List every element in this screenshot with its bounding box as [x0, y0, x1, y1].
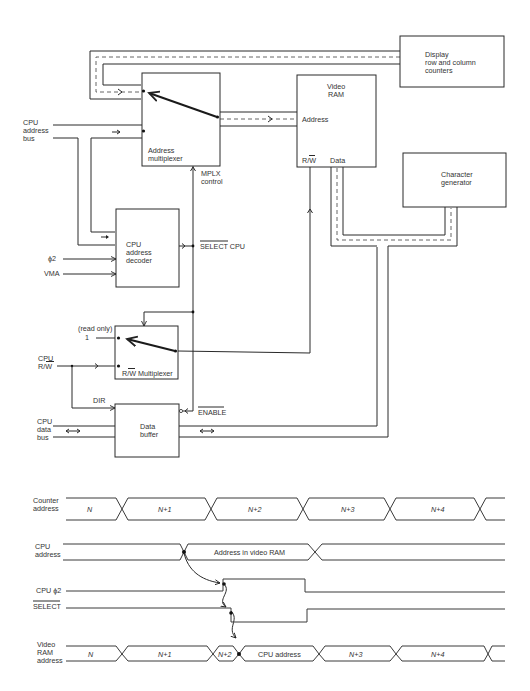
- timing-row-counter-address: Counter address N N+1 N+2 N+3 N+4: [33, 496, 505, 520]
- video-ram-block: Video RAM Address R/W Data: [297, 75, 376, 167]
- vram-seg-5: N+4: [431, 650, 444, 659]
- char-gen-label-2: generator: [441, 178, 472, 187]
- select-cpu-label: SELECT CPU: [200, 242, 245, 251]
- phi2-label: ϕ2: [48, 254, 56, 263]
- vma-label: VMA: [44, 269, 60, 278]
- address-mux-label-2: multiplexer: [148, 154, 183, 163]
- select-label: SELECT: [33, 602, 62, 611]
- diagram-canvas: Display row and column counters Address …: [0, 0, 530, 691]
- counter-seg-2: N+2: [248, 505, 261, 514]
- decoder-inputs: ϕ2 VMA: [44, 254, 116, 278]
- vram-seg-3: CPU address: [258, 650, 301, 659]
- counter-address-label-2: address: [33, 504, 59, 513]
- vram-seg-2: N+2: [218, 650, 231, 659]
- mplx-control-line: MPLX control: [191, 166, 223, 400]
- cpu-address-label-2: address: [35, 550, 61, 559]
- mux-to-vram-address-bus: [220, 112, 297, 126]
- counter-seg-1: N+1: [158, 505, 171, 514]
- cpu-rw-signal: CPU R/W DIR: [38, 354, 115, 408]
- video-ram-label-2: RAM: [328, 90, 344, 99]
- address-multiplexer-block: Address multiplexer: [142, 73, 220, 166]
- read-only-value: 1: [85, 333, 89, 342]
- vram-address-label-3: address: [37, 656, 63, 665]
- video-ram-rw-port: R/W: [302, 156, 316, 165]
- timing-row-cpu-phi2: CPU ϕ2: [36, 579, 505, 595]
- dir-label: DIR: [93, 396, 105, 405]
- counter-seg-0: N: [87, 505, 93, 514]
- counter-seg-4: N+4: [431, 505, 444, 514]
- cpu-address-decoder-block: CPU address decoder SELECT CPU: [116, 209, 245, 287]
- data-buffer-label-2: buffer: [140, 430, 159, 439]
- mplx-control-label-2: control: [201, 177, 223, 186]
- timing-row-video-ram-address: Video RAM address N N+1 N+2 CPU address …: [37, 640, 505, 665]
- timing-row-select: SELECT: [33, 601, 505, 622]
- vram-seg-1: N+1: [158, 650, 171, 659]
- read-only-label: (read only): [78, 324, 112, 333]
- cpu-address-bus-label-3: bus: [23, 134, 35, 143]
- video-ram-address-port: Address: [302, 115, 329, 124]
- data-buffer-block: Data buffer ENABLE: [115, 400, 227, 457]
- decoder-label-3: decoder: [126, 256, 153, 265]
- vram-seg-0: N: [88, 650, 94, 659]
- cpu-address-segment: Address in video RAM: [214, 548, 285, 557]
- vram-seg-4: N+3: [349, 650, 362, 659]
- timing-row-cpu-address: CPU address Address in video RAM: [35, 542, 505, 560]
- cpu-rw-label-2: R/W: [38, 362, 52, 371]
- counter-seg-3: N+3: [341, 505, 354, 514]
- enable-label: ENABLE: [198, 408, 227, 417]
- cpu-phi2-label: CPU ϕ2: [36, 586, 61, 595]
- display-counters-label-3: counters: [425, 66, 453, 75]
- display-counters-block: Display row and column counters: [400, 36, 504, 87]
- cpu-data-bus: CPU data bus: [37, 417, 115, 442]
- cpu-data-bus-label-3: bus: [37, 433, 49, 442]
- video-ram-data-port: Data: [330, 156, 345, 165]
- rw-mux-label: R/W Multiplexer: [122, 369, 173, 378]
- character-generator-block: Character generator: [403, 153, 506, 207]
- timing-causal-arrows: [184, 553, 236, 638]
- rw-multiplexer-block: R/W Multiplexer (read only) 1: [78, 167, 313, 379]
